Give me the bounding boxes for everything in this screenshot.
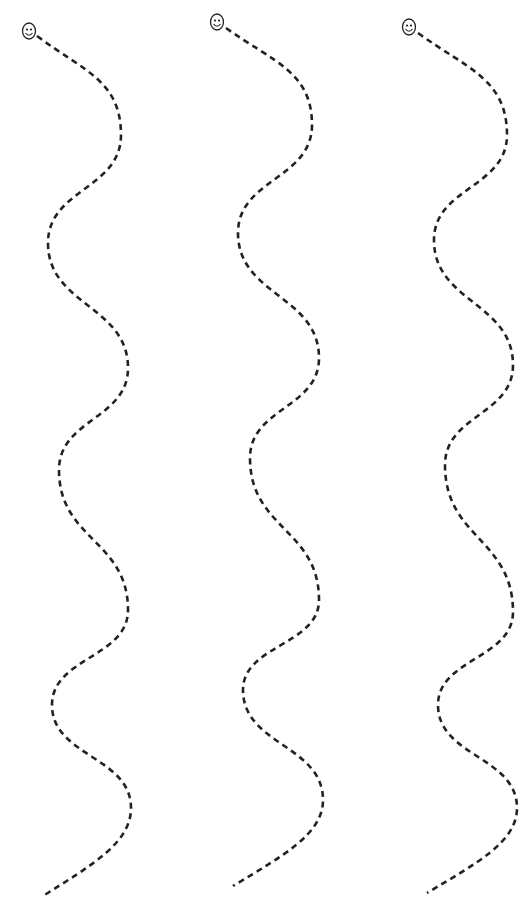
smiley-face-outline	[403, 19, 416, 35]
smiley-face-icon	[23, 23, 36, 39]
track-3	[403, 19, 518, 893]
smiley-mouth	[214, 24, 221, 26]
dashed-wavy-line	[37, 36, 131, 896]
smiley-eye	[214, 19, 216, 21]
smiley-face-outline	[211, 14, 224, 30]
dashed-wavy-line	[226, 28, 323, 886]
smiley-mouth	[26, 33, 33, 35]
tracing-worksheet	[0, 0, 527, 910]
smiley-face-icon	[403, 19, 416, 35]
track-1	[23, 23, 132, 896]
smiley-eye	[218, 19, 220, 21]
dashed-wavy-line	[418, 33, 517, 893]
smiley-eye	[26, 28, 28, 30]
smiley-eye	[410, 24, 412, 26]
smiley-face-outline	[23, 23, 36, 39]
smiley-mouth	[406, 29, 413, 31]
smiley-eye	[406, 24, 408, 26]
smiley-face-icon	[211, 14, 224, 30]
track-2	[211, 14, 324, 886]
smiley-eye	[30, 28, 32, 30]
worksheet-canvas	[0, 0, 527, 910]
